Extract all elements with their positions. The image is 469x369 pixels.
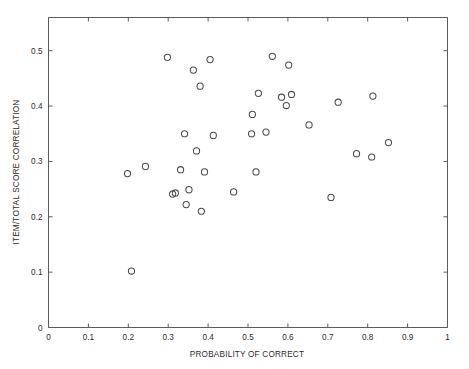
y-tick-label: 0.4 (31, 102, 43, 111)
scatter-plot-figure: 00.10.20.30.40.50.60.70.80.91 00.10.20.3… (0, 0, 469, 369)
data-point (328, 194, 334, 200)
y-axis-ticks (49, 51, 448, 328)
y-tick-label: 0.2 (31, 213, 43, 222)
data-point (269, 53, 275, 59)
y-axis-tick-labels: 00.10.20.30.40.5 (31, 47, 43, 333)
x-axis-tick-labels: 00.10.20.30.40.50.60.70.80.91 (46, 333, 450, 342)
data-point (263, 129, 269, 135)
data-point (183, 202, 189, 208)
x-tick-label: 0.1 (83, 333, 95, 342)
data-point (186, 187, 192, 193)
x-tick-label: 0.5 (242, 333, 254, 342)
x-tick-label: 0 (46, 333, 51, 342)
y-tick-label: 0 (38, 324, 43, 333)
y-tick-label: 0.1 (31, 268, 43, 277)
data-point (248, 131, 254, 137)
data-point (197, 83, 203, 89)
data-point (181, 131, 187, 137)
data-point (231, 189, 237, 195)
data-point (283, 102, 289, 108)
plot-canvas: 00.10.20.30.40.50.60.70.80.91 00.10.20.3… (0, 0, 469, 369)
x-tick-label: 1 (445, 333, 450, 342)
data-point (128, 268, 134, 274)
data-point (193, 148, 199, 154)
data-point (201, 169, 207, 175)
x-tick-label: 0.3 (163, 333, 175, 342)
data-point (288, 91, 294, 97)
data-point (306, 122, 312, 128)
data-point (124, 171, 130, 177)
x-axis-ticks (49, 18, 448, 328)
data-point (253, 169, 259, 175)
x-tick-label: 0.4 (202, 333, 214, 342)
x-tick-label: 0.9 (402, 333, 414, 342)
x-tick-label: 0.6 (282, 333, 294, 342)
data-point (210, 132, 216, 138)
y-axis-title: ITEM/TOTAL SCORE CORRELATION (12, 100, 21, 245)
y-tick-label: 0.3 (31, 157, 43, 166)
data-point (286, 62, 292, 68)
plot-box (49, 18, 448, 328)
axis-frame (49, 18, 448, 328)
x-tick-label: 0.7 (322, 333, 334, 342)
data-point (353, 151, 359, 157)
data-point-markers (124, 53, 391, 274)
data-point (164, 54, 170, 60)
data-point (370, 93, 376, 99)
data-point (190, 67, 196, 73)
data-point (385, 140, 391, 146)
data-point (255, 90, 261, 96)
data-point (142, 163, 148, 169)
data-point (177, 167, 183, 173)
data-point (335, 99, 341, 105)
data-point (249, 111, 255, 117)
y-tick-label: 0.5 (31, 47, 43, 56)
x-axis-title: PROBABILITY OF CORRECT (190, 350, 304, 359)
data-point (198, 208, 204, 214)
data-point (207, 56, 213, 62)
x-tick-label: 0.2 (123, 333, 135, 342)
data-point (369, 154, 375, 160)
x-tick-label: 0.8 (362, 333, 374, 342)
data-point (278, 94, 284, 100)
